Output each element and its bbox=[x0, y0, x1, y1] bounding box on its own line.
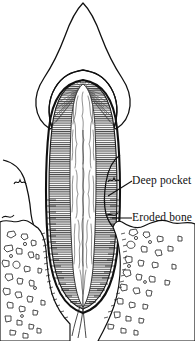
label-eroded-bone: Eroded bone bbox=[132, 212, 192, 224]
pulp-canal bbox=[70, 84, 96, 308]
dental-illustration-figure: Deep pocket Eroded bone bbox=[0, 0, 195, 341]
label-deep-pocket: Deep pocket bbox=[132, 175, 191, 187]
tooth-cross-section-svg bbox=[0, 0, 195, 341]
